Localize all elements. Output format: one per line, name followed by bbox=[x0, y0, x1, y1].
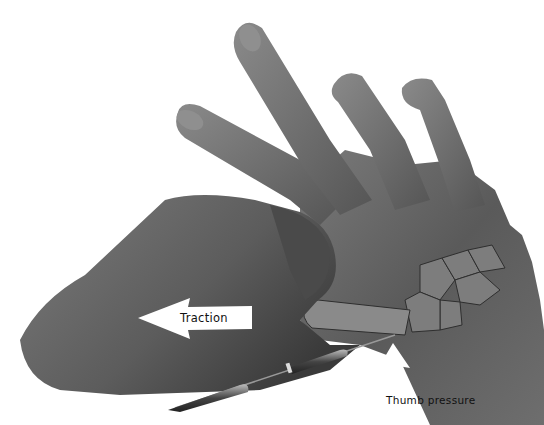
traction-label: Traction bbox=[180, 311, 228, 325]
hand-illustration bbox=[0, 0, 544, 425]
thumb-pressure-label: Thumb pressure bbox=[386, 394, 476, 406]
